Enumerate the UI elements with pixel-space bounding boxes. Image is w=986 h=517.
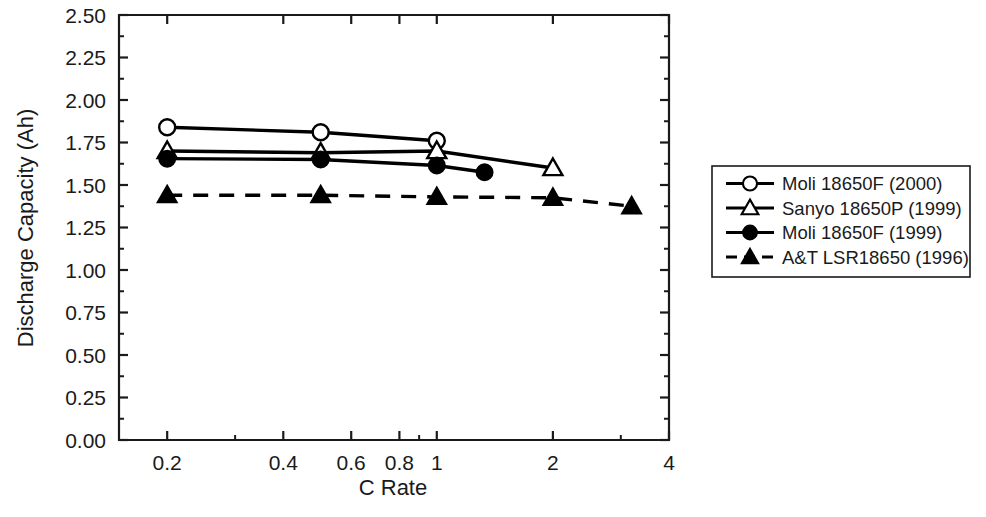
y-tick-label: 1.00 — [65, 259, 106, 282]
y-tick-label: 2.25 — [65, 46, 106, 69]
data-point-open-circle — [313, 124, 329, 140]
x-tick-label: 0.6 — [337, 451, 366, 474]
legend-label: A&T LSR18650 (1996) — [782, 247, 969, 268]
y-tick-label: 1.75 — [65, 131, 106, 154]
legend-label: Moli 18650F (1999) — [782, 222, 942, 243]
series-3 — [158, 186, 641, 214]
data-point-filled-circle — [313, 152, 329, 168]
x-tick-label: 0.2 — [153, 451, 182, 474]
x-axis-title: C Rate — [359, 475, 427, 500]
legend-label: Moli 18650F (2000) — [782, 173, 942, 194]
figure-root: 0.000.250.500.751.001.251.501.752.002.25… — [0, 0, 986, 517]
data-point-filled-circle — [159, 151, 175, 167]
x-tick-label: 0.4 — [269, 451, 299, 474]
series-line — [167, 127, 437, 141]
data-point-filled-triangle — [622, 197, 641, 214]
legend-label: Sanyo 18650P (1999) — [782, 198, 962, 219]
y-axis: 0.000.250.500.751.001.251.501.752.002.25… — [65, 4, 669, 452]
y-tick-label: 2.50 — [65, 4, 106, 27]
x-axis: 0.20.40.60.8124 — [153, 15, 676, 474]
y-tick-label: 1.25 — [65, 216, 106, 239]
data-point-filled-circle — [477, 164, 493, 180]
y-tick-label: 0.75 — [65, 301, 106, 324]
y-tick-label: 0.25 — [65, 386, 106, 409]
y-tick-label: 0.50 — [65, 344, 106, 367]
series-0 — [159, 119, 445, 149]
chart-figure: 0.000.250.500.751.001.251.501.752.002.25… — [0, 0, 986, 517]
data-point-filled-circle — [743, 225, 757, 239]
y-tick-label: 2.00 — [65, 89, 106, 112]
data-point-filled-circle — [429, 157, 445, 173]
data-point-open-circle — [159, 119, 175, 135]
data-point-filled-triangle — [543, 188, 562, 205]
y-axis-title: Discharge Capacity (Ah) — [13, 109, 38, 347]
x-tick-label: 2 — [547, 451, 559, 474]
axis-frame — [119, 15, 669, 440]
x-tick-label: 0.8 — [385, 451, 414, 474]
x-tick-label: 1 — [431, 451, 443, 474]
data-series-group — [158, 119, 641, 213]
y-tick-label: 0.00 — [65, 429, 106, 452]
chart-svg: 0.000.250.500.751.001.251.501.752.002.25… — [0, 0, 986, 517]
legend: Moli 18650F (2000)Sanyo 18650P (1999)Mol… — [712, 166, 970, 277]
y-tick-label: 1.50 — [65, 174, 106, 197]
data-point-open-circle — [743, 176, 757, 190]
x-tick-label: 4 — [663, 451, 675, 474]
